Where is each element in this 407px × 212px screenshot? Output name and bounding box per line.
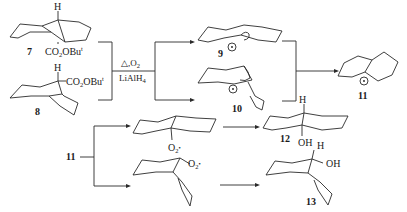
svg-text:9: 9 xyxy=(218,48,223,59)
svg-text:10: 10 xyxy=(232,103,242,114)
compound-7: H 7 CO2OBut xyxy=(10,1,91,58)
branch-arrows: 11 xyxy=(66,124,131,188)
compound-number-7: 7 xyxy=(27,46,32,57)
svg-text:11: 11 xyxy=(358,90,367,101)
compound-number-8: 8 xyxy=(35,106,40,117)
compound-8: H CO2OBut 8 xyxy=(10,62,104,117)
hydrogen-label: H xyxy=(54,1,61,12)
reaction-conditions: △,O2 LiAlH4 xyxy=(98,40,195,102)
compound-11: 11 xyxy=(338,52,398,101)
compound-9: 9 xyxy=(198,25,282,59)
merge-arrow xyxy=(282,41,339,101)
compound-13: H OH 13 xyxy=(266,140,340,207)
svg-text:12: 12 xyxy=(280,133,290,144)
svg-text:O2•: O2• xyxy=(168,142,181,154)
svg-text:H: H xyxy=(317,140,324,151)
svg-text:OH: OH xyxy=(298,137,312,148)
reduction-arrows xyxy=(220,125,260,187)
svg-text:13: 13 xyxy=(306,196,316,207)
reaction-scheme: H 7 CO2OBut H CO2OBut 8 △,O2 LiAlH4 9 xyxy=(0,0,407,212)
svg-text:LiAlH4: LiAlH4 xyxy=(119,73,147,84)
svg-text:H: H xyxy=(299,94,306,105)
svg-text:CO2OBut: CO2OBut xyxy=(66,75,104,88)
svg-text:OH: OH xyxy=(326,158,340,169)
svg-text:11: 11 xyxy=(66,151,75,162)
svg-text:△,O2: △,O2 xyxy=(121,58,140,69)
peroxy-radical-trans: O2• xyxy=(133,116,216,154)
compound-10: 10 xyxy=(198,66,264,114)
svg-text:O2•: O2• xyxy=(188,158,201,170)
compound-12: H 12 OH xyxy=(263,94,348,148)
hydrogen-label: H xyxy=(54,62,61,73)
svg-text:CO2OBut: CO2OBut xyxy=(45,45,83,58)
peroxy-radical-cis: O2• xyxy=(133,158,201,206)
